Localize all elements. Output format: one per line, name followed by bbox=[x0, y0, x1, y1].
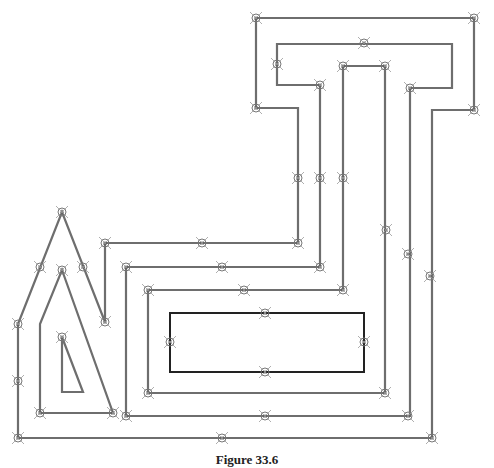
point-marker-icon bbox=[120, 261, 132, 273]
point-marker-icon bbox=[238, 284, 250, 296]
point-marker-icon bbox=[196, 237, 208, 249]
point-marker-icon bbox=[424, 270, 436, 282]
point-marker-icon bbox=[12, 318, 24, 330]
point-marker-icon bbox=[56, 331, 68, 343]
point-marker-icon bbox=[379, 60, 391, 72]
point-marker-icon bbox=[107, 407, 119, 419]
point-marker-icon bbox=[426, 432, 438, 444]
point-marker-icon bbox=[77, 261, 89, 273]
point-marker-icon bbox=[337, 172, 349, 184]
point-marker-icon bbox=[99, 237, 111, 249]
point-marker-icon bbox=[142, 387, 154, 399]
point-marker-icon bbox=[358, 37, 370, 49]
point-marker-icon bbox=[314, 261, 326, 273]
fourth-path bbox=[148, 66, 385, 393]
point-marker-icon bbox=[34, 407, 46, 419]
point-marker-icon bbox=[380, 224, 392, 236]
point-marker-icon bbox=[259, 307, 271, 319]
point-marker-icon bbox=[216, 432, 228, 444]
point-marker-icon bbox=[56, 264, 68, 276]
inner-triangle bbox=[62, 337, 83, 392]
center-rectangle bbox=[170, 313, 364, 372]
point-marker-icon bbox=[271, 58, 283, 70]
third-path bbox=[126, 44, 452, 416]
rectangle-outline bbox=[170, 313, 364, 372]
point-marker-icon bbox=[56, 206, 68, 218]
point-marker-icon bbox=[337, 284, 349, 296]
point-marker-icon bbox=[468, 12, 480, 24]
point-marker-icon bbox=[468, 104, 480, 116]
point-marker-icon bbox=[99, 316, 111, 328]
point-marker-icon bbox=[314, 172, 326, 184]
point-marker-icon bbox=[402, 248, 414, 260]
point-marker-icon bbox=[12, 432, 24, 444]
point-marker-icon bbox=[250, 12, 262, 24]
point-marker-icon bbox=[164, 336, 176, 348]
point-marker-icon bbox=[358, 336, 370, 348]
point-marker-icon bbox=[216, 261, 228, 273]
point-marker-icon bbox=[314, 79, 326, 91]
point-marker-icon bbox=[142, 284, 154, 296]
point-marker-icon bbox=[292, 237, 304, 249]
figure-caption: Figure 33.6 bbox=[0, 452, 494, 468]
point-marker-icon bbox=[34, 261, 46, 273]
point-marker-icon bbox=[259, 410, 271, 422]
point-marker-icon bbox=[292, 172, 304, 184]
point-marker-icon bbox=[404, 82, 416, 94]
paths-layer bbox=[18, 18, 474, 438]
point-marker-icon bbox=[12, 375, 24, 387]
point-marker-icon bbox=[379, 387, 391, 399]
point-marker-icon bbox=[337, 60, 349, 72]
point-marker-icon bbox=[250, 102, 262, 114]
outer-path bbox=[18, 18, 474, 438]
point-marker-icon bbox=[120, 410, 132, 422]
point-marker-icon bbox=[402, 410, 414, 422]
point-marker-icon bbox=[259, 366, 271, 378]
